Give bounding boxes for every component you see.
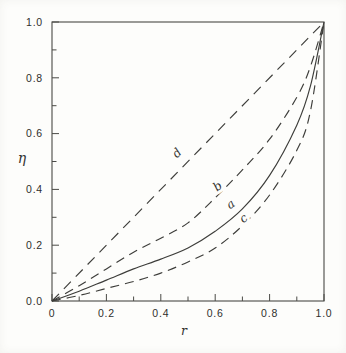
x-axis-label: r (181, 323, 187, 338)
curve-label-b: b (210, 178, 225, 194)
x-tick-label: 1.0 (316, 307, 333, 319)
y-tick-label: 0.6 (26, 127, 43, 139)
x-tick-label: 0 (49, 307, 56, 319)
curve-label-c: c (236, 211, 250, 226)
x-tick-label: 0.2 (98, 307, 115, 319)
figure: 00.20.40.60.81.00.00.20.40.60.81.0dbac η… (0, 0, 346, 353)
x-tick-label: 0.8 (261, 307, 278, 319)
chart-canvas: 00.20.40.60.81.00.00.20.40.60.81.0dbac (0, 0, 346, 353)
y-axis-label: η (18, 150, 26, 166)
y-tick-label: 0.8 (26, 72, 43, 84)
x-tick-label: 0.4 (152, 307, 169, 319)
curve-label-a: a (224, 196, 238, 212)
y-tick-label: 1.0 (26, 16, 43, 28)
y-tick-label: 0.0 (26, 295, 43, 307)
curve-d (52, 22, 324, 301)
y-tick-label: 0.2 (26, 239, 43, 251)
y-tick-label: 0.4 (26, 183, 43, 195)
x-tick-label: 0.6 (207, 307, 224, 319)
curve-label-d: d (169, 145, 185, 161)
